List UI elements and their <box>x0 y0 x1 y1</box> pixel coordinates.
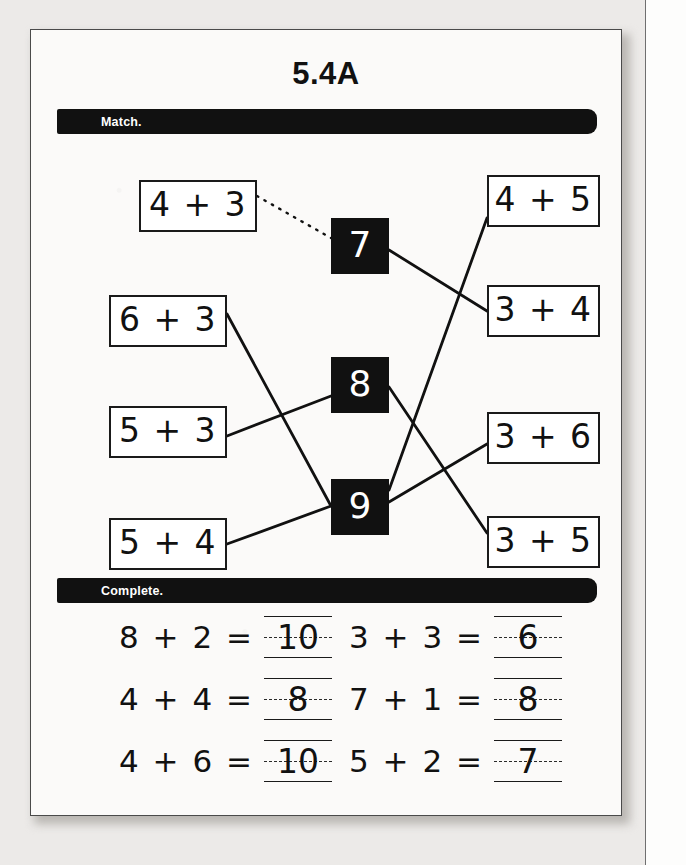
equation-row: 4 + 4 =8 <box>119 676 332 722</box>
match-right-expression-label: 3 + 6 <box>494 420 592 453</box>
answer-value: 8 <box>264 676 332 722</box>
answer-blank[interactable]: 10 <box>264 738 332 784</box>
equation-row: 7 + 1 =8 <box>349 676 562 722</box>
worksheet-page: 5.4A Match. 4 + 36 + 35 + 35 + 44 + 53 +… <box>30 29 622 816</box>
match-line-0[interactable] <box>257 196 331 238</box>
match-sum-box-1[interactable]: 8 <box>331 357 389 413</box>
answer-blank[interactable]: 10 <box>264 614 332 660</box>
match-sum-box-label: 7 <box>349 227 372 263</box>
answer-value: 10 <box>264 614 332 660</box>
equation-row: 8 + 2 =10 <box>119 614 332 660</box>
match-right-expression-1[interactable]: 3 + 4 <box>487 285 600 337</box>
match-left-expression-1[interactable]: 6 + 3 <box>109 295 227 347</box>
match-sum-box-0[interactable]: 7 <box>331 218 389 274</box>
answer-value: 10 <box>264 738 332 784</box>
equation-row: 5 + 2 =7 <box>349 738 562 784</box>
answer-blank[interactable]: 7 <box>494 738 562 784</box>
answer-value: 8 <box>494 676 562 722</box>
match-line-3[interactable] <box>227 396 331 436</box>
match-right-expression-label: 3 + 4 <box>494 293 592 326</box>
equation-row: 3 + 3 =6 <box>349 614 562 660</box>
answer-blank[interactable]: 6 <box>494 614 562 660</box>
section-header-match: Match. <box>57 109 597 134</box>
match-left-expression-2[interactable]: 5 + 3 <box>109 406 227 458</box>
page-title: 5.4A <box>31 56 621 92</box>
match-line-4[interactable] <box>227 506 331 544</box>
match-left-expression-label: 5 + 4 <box>119 526 217 559</box>
answer-value: 6 <box>494 614 562 660</box>
answer-blank[interactable]: 8 <box>264 676 332 722</box>
section-header-complete: Complete. <box>57 578 597 603</box>
match-left-expression-label: 6 + 3 <box>119 303 217 336</box>
match-left-expression-label: 5 + 3 <box>119 414 217 447</box>
section-label-match: Match. <box>101 115 142 129</box>
equation-expression: 7 + 1 = <box>349 684 484 715</box>
match-line-2[interactable] <box>227 314 331 506</box>
match-right-expression-label: 4 + 5 <box>494 183 592 216</box>
equation-expression: 8 + 2 = <box>119 622 254 653</box>
match-left-expression-0[interactable]: 4 + 3 <box>139 180 257 232</box>
equation-row: 4 + 6 =10 <box>119 738 332 784</box>
equation-expression: 5 + 2 = <box>349 746 484 777</box>
match-sum-box-label: 9 <box>349 488 372 524</box>
match-right-expression-3[interactable]: 3 + 5 <box>487 516 600 568</box>
answer-blank[interactable]: 8 <box>494 676 562 722</box>
match-sum-box-2[interactable]: 9 <box>331 479 389 535</box>
matching-exercise-area: 4 + 36 + 35 + 35 + 44 + 53 + 43 + 63 + 5… <box>31 134 623 574</box>
adjacent-page-edge <box>645 0 686 865</box>
answer-value: 7 <box>494 738 562 784</box>
match-right-expression-0[interactable]: 4 + 5 <box>487 175 600 227</box>
complete-exercise-area: 8 + 2 =103 + 3 =64 + 4 =87 + 1 =84 + 6 =… <box>31 614 623 814</box>
equation-expression: 4 + 4 = <box>119 684 254 715</box>
match-left-expression-label: 4 + 3 <box>149 188 247 221</box>
match-left-expression-3[interactable]: 5 + 4 <box>109 518 227 570</box>
match-sum-box-label: 8 <box>349 366 372 402</box>
equation-expression: 3 + 3 = <box>349 622 484 653</box>
match-right-expression-2[interactable]: 3 + 6 <box>487 412 600 464</box>
match-right-expression-label: 3 + 5 <box>494 524 592 557</box>
match-line-5[interactable] <box>389 387 487 533</box>
section-label-complete: Complete. <box>101 584 163 598</box>
equation-expression: 4 + 6 = <box>119 746 254 777</box>
